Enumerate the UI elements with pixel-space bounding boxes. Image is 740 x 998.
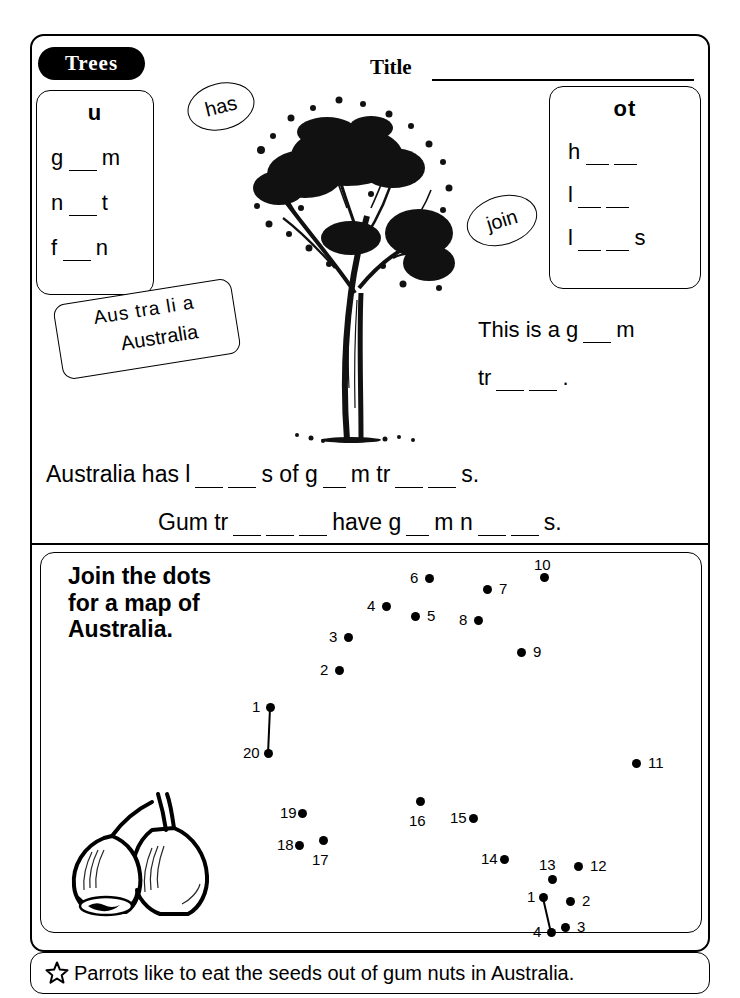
answer-blank[interactable] [406,519,429,536]
answer-blank[interactable] [583,326,611,343]
map-dot-7[interactable] [483,585,492,594]
gum-nuts-illustration [48,786,213,934]
word-row-gum[interactable]: g m [37,145,153,171]
map-dot-8[interactable] [474,616,483,625]
answer-blank[interactable] [299,519,327,536]
map-dot-label-14: 14 [481,850,498,867]
topic-tab-trees: Trees [38,47,145,80]
sentence-text: Australia has l [46,461,190,488]
map-dot-label-12: 12 [590,857,607,874]
map-dot-label-17: 17 [312,851,329,868]
map-dot-14[interactable] [500,855,509,864]
word-row-lot[interactable]: l [550,182,700,208]
inset-dot-label-1: 1 [527,888,535,905]
sentence-text: s of g [261,461,317,488]
map-dot-10[interactable] [540,573,549,582]
word-prefix: l [568,225,573,251]
word-suffix: t [102,190,109,216]
sentence-line-2: tr . [478,365,635,391]
map-dot-13[interactable] [548,875,557,884]
answer-blank[interactable] [529,374,557,391]
instruction-line-1: Join the dots [68,563,278,590]
map-dot-18[interactable] [295,841,304,850]
map-dot-label-18: 18 [277,836,294,853]
answer-blank[interactable] [69,154,97,171]
word-row-fun[interactable]: f n [37,235,153,261]
map-dot-16[interactable] [416,797,425,806]
answer-blank[interactable] [233,519,261,536]
map-dot-19[interactable] [298,809,307,818]
word-box-u: u g m n t f n [36,90,154,295]
answer-blank[interactable] [606,234,629,251]
answer-blank[interactable] [606,191,629,208]
instruction-line-3: Australia. [68,616,278,643]
map-dot-label-4: 4 [367,597,375,614]
worksheet-page: Trees Title u g m n t f n ot h l [0,0,740,998]
word-row-hot[interactable]: h [550,139,700,165]
topic-tab-label: Trees [65,51,118,76]
answer-blank[interactable] [323,471,346,488]
word-row-lots[interactable]: l s [550,225,700,251]
answer-blank[interactable] [428,471,456,488]
sentence-text: s. [544,509,562,536]
answer-blank[interactable] [195,471,223,488]
map-dot-5[interactable] [411,612,420,621]
map-dot-4[interactable] [382,602,391,611]
answer-blank[interactable] [614,148,637,165]
answer-blank[interactable] [496,374,524,391]
map-dot-6[interactable] [425,574,434,583]
map-dot-label-2: 2 [320,661,328,678]
answer-blank[interactable] [511,519,539,536]
word-prefix: f [51,235,58,261]
word-prefix: l [568,182,573,208]
section-divider [30,543,710,545]
inset-dot-label-4: 4 [533,923,541,940]
map-dot-3[interactable] [344,633,353,642]
answer-blank[interactable] [266,519,294,536]
title-write-line[interactable] [432,79,694,81]
map-dot-label-13: 13 [539,856,556,873]
sentence-text: have g [332,509,401,536]
fun-fact-footer: Parrots like to eat the seeds out of gum… [30,952,710,994]
inset-dot-label-2: 2 [582,892,590,909]
map-dot-15[interactable] [469,814,478,823]
map-dot-12[interactable] [574,862,583,871]
answer-blank[interactable] [63,244,91,261]
word-prefix: g [51,145,64,171]
answer-blank[interactable] [228,471,256,488]
map-dot-17[interactable] [319,836,328,845]
map-dot-label-5: 5 [427,607,435,624]
map-dot-label-1: 1 [252,698,260,715]
sentence-gum-trees-have-gum-nuts[interactable]: Gum tr have g m n s. [158,509,562,536]
word-suffix: s [634,225,646,251]
map-dot-2[interactable] [335,666,344,675]
answer-blank[interactable] [395,471,423,488]
inset-dot-3[interactable] [561,923,570,932]
map-dot-label-6: 6 [410,569,418,586]
map-dot-9[interactable] [517,648,526,657]
word-prefix: h [568,139,581,165]
inset-dot-2[interactable] [566,897,575,906]
answer-blank[interactable] [69,199,97,216]
map-dot-label-10: 10 [534,556,551,573]
sentence-australia-has-lots[interactable]: Australia has l s of g m tr s. [46,461,479,488]
answer-blank[interactable] [578,191,601,208]
word-row-nut[interactable]: n t [37,190,153,216]
answer-blank[interactable] [586,148,609,165]
map-dot-label-16: 16 [409,812,426,829]
answer-blank[interactable] [478,519,506,536]
map-dot-11[interactable] [632,759,641,768]
word-suffix: n [96,235,109,261]
sentence-this-is-a-gum-tree[interactable]: This is a g m tr . [478,317,635,391]
sentence-text: s. [461,461,479,488]
map-dot-label-9: 9 [533,643,541,660]
map-dot-label-11: 11 [648,754,664,771]
map-dot-label-8: 8 [459,611,467,628]
dot-to-dot-instruction: Join the dots for a map of Australia. [68,563,278,643]
map-dot-label-20: 20 [243,744,260,761]
word-bubble-join-label: join [484,205,521,236]
instruction-line-2: for a map of [68,590,278,617]
answer-blank[interactable] [578,234,601,251]
map-dot-label-3: 3 [329,628,337,645]
sentence-line-1: This is a g m [478,317,635,343]
